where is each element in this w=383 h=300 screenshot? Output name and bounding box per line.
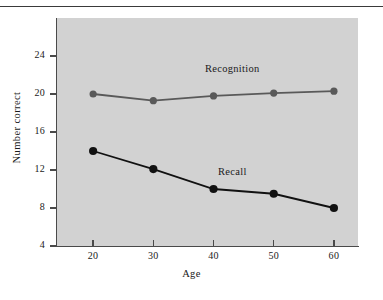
series-label-recognition: Recognition <box>205 63 260 74</box>
data-point-recognition <box>330 88 337 95</box>
data-point-recall <box>270 190 278 198</box>
series-line-recall <box>93 151 334 208</box>
data-point-recognition <box>270 89 277 96</box>
y-axis-title: Number correct <box>11 68 22 188</box>
series-label-recall: Recall <box>218 166 247 177</box>
data-point-recognition <box>90 90 97 97</box>
data-point-recall <box>89 147 97 155</box>
data-point-recall <box>149 165 157 173</box>
series-plot <box>0 0 383 300</box>
data-point-recognition <box>150 97 157 104</box>
data-point-recognition <box>210 92 217 99</box>
x-axis-title: Age <box>0 268 383 279</box>
figure-container: 4812162024 2030405060 Recognition Recall… <box>0 0 383 300</box>
data-point-recall <box>330 204 338 212</box>
data-point-recall <box>209 185 217 193</box>
